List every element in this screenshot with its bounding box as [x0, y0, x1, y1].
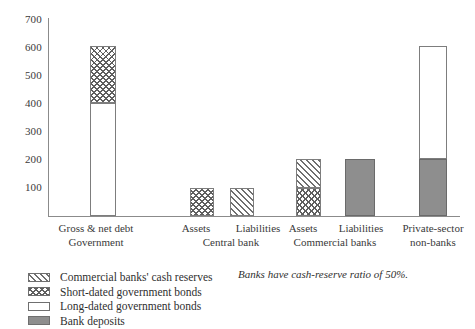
bar-commercial-banks-liabilities [345, 159, 375, 216]
y-tick-label-700: 700 [2, 13, 42, 25]
category-label-gross-net-debt: Gross & net debt [38, 222, 154, 234]
y-tick-label-600: 600 [2, 41, 42, 53]
x-axis-line [48, 216, 460, 217]
y-tick-label-200: 200 [2, 153, 42, 165]
bar-central-bank-liabilities [230, 188, 254, 216]
y-tick-label-500: 500 [2, 69, 42, 81]
segment-short-dated-government-bonds [90, 46, 116, 103]
legend-label: Short-dated government bonds [60, 286, 202, 298]
segment-long-dated-government-bonds [419, 46, 447, 159]
segment-bank-deposits [345, 159, 375, 216]
y-tick-label-300: 300 [2, 125, 42, 137]
segment-short-dated-government-bonds [190, 188, 214, 216]
legend-label: Commercial banks' cash reserves [60, 271, 212, 283]
legend-label: Bank deposits [60, 315, 125, 327]
bar-commercial-banks-assets [296, 159, 321, 216]
legend-label: Long-dated government bonds [60, 300, 201, 312]
chart-note: Banks have cash-reserve ratio of 50%. [238, 268, 408, 280]
chart-container: 700 600 500 400 300 200 100 [0, 0, 475, 329]
segment-commercial-banks-cash-reserves [296, 159, 321, 187]
plot-area [48, 18, 460, 216]
legend-swatch-gray-icon [28, 316, 50, 325]
group-label-non-banks: non-banks [392, 236, 474, 248]
bar-private-sector-non-banks [419, 46, 447, 216]
legend-item-bank-deposits: Bank deposits [28, 314, 328, 329]
segment-commercial-banks-cash-reserves [230, 188, 254, 216]
segment-bank-deposits [419, 159, 447, 216]
group-label-government: Government [38, 236, 154, 248]
legend-swatch-cross-hatch-icon [28, 287, 50, 296]
y-tick-label-400: 400 [2, 97, 42, 109]
legend-item-short-dated-bonds: Short-dated government bonds [28, 285, 328, 300]
segment-short-dated-government-bonds [296, 188, 321, 216]
legend-swatch-diagonal-hatch-icon [28, 273, 50, 282]
legend-item-long-dated-bonds: Long-dated government bonds [28, 299, 328, 314]
bar-government [90, 46, 116, 216]
legend-swatch-white-icon [28, 302, 50, 311]
category-label-private-sector: Private-sector [392, 222, 474, 234]
bar-central-bank-assets [190, 188, 214, 216]
y-axis-line [48, 18, 49, 216]
y-tick-label-100: 100 [2, 181, 42, 193]
segment-long-dated-government-bonds [90, 103, 116, 216]
category-label-central-bank-assets: Assets [165, 222, 227, 234]
group-label-commercial-banks: Commercial banks [272, 236, 398, 248]
category-label-commercial-banks-liabilities: Liabilities [325, 222, 397, 234]
